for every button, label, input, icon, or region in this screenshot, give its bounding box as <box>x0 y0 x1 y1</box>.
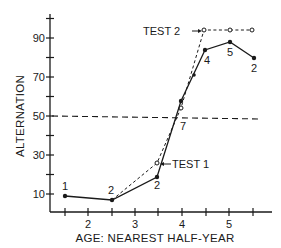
y-tick-10: 10 <box>33 188 45 200</box>
test1-line <box>65 42 254 200</box>
sample-size-labels: 1 2 2 7 4 5 2 <box>62 46 257 196</box>
x-tick-4: 4 <box>179 218 185 230</box>
n-label: 2 <box>251 62 257 74</box>
y-tick-70: 70 <box>33 71 45 83</box>
n-label: 5 <box>227 46 233 58</box>
alternation-chart: 10 30 50 70 90 2 3 4 5 AGE: NEAREST HALF… <box>0 0 281 248</box>
x-tick-labels: 2 3 4 5 <box>85 218 232 230</box>
n-label: 1 <box>62 180 68 192</box>
y-tick-50: 50 <box>33 110 45 122</box>
n-label: 2 <box>108 184 114 196</box>
test1-annotation: TEST 1 <box>172 158 209 170</box>
n-label: 7 <box>180 120 186 132</box>
y-axis-title: ALTERNATION <box>14 75 26 157</box>
test2-annotation: TEST 2 <box>143 25 180 37</box>
y-tick-90: 90 <box>33 32 45 44</box>
test1-markers <box>63 40 256 202</box>
y-tick-30: 30 <box>33 149 45 161</box>
chance-reference-line <box>52 116 262 119</box>
x-tick-5: 5 <box>226 218 232 230</box>
x-tick-3: 3 <box>132 218 138 230</box>
test2-arrowhead <box>198 29 202 33</box>
x-axis-title: AGE: NEAREST HALF-YEAR <box>75 232 234 244</box>
n-label: 2 <box>154 179 160 191</box>
y-tick-labels: 10 30 50 70 90 <box>33 32 45 200</box>
x-tick-2: 2 <box>85 218 91 230</box>
n-label: 4 <box>204 54 210 66</box>
